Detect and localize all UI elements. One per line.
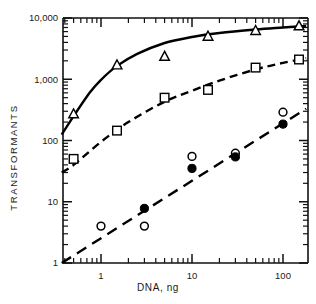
data-point-filled-circle: [188, 164, 196, 172]
x-tick-label: 100: [275, 270, 291, 281]
y-axis-title: TRANSFORMANTS: [2, 86, 24, 226]
data-point-open-square: [204, 86, 213, 95]
data-point-open-square: [113, 126, 122, 135]
series-line-triangles: [62, 26, 307, 135]
figure-container: 1101001,00010,000110100 TRANSFORMANTS DN…: [0, 0, 316, 304]
data-point-open-circle: [188, 153, 196, 161]
data-point-open-square: [160, 93, 169, 102]
x-tick-label: 1: [98, 270, 103, 281]
x-axis-title: DNA, ng: [0, 282, 316, 293]
y-tick-label: 10: [47, 196, 58, 207]
y-tick-label: 1,000: [34, 74, 58, 85]
data-point-filled-circle: [231, 153, 239, 161]
y-tick-label: 10,000: [29, 12, 58, 23]
series-line-filled-circles: [62, 109, 307, 263]
data-markers: [69, 21, 304, 230]
series-line-open-squares: [62, 58, 307, 172]
data-point-filled-circle: [279, 120, 287, 128]
y-tick-label: 1: [53, 257, 58, 268]
data-point-open-square: [295, 55, 304, 64]
y-axis-title-text: TRANSFORMANTS: [8, 88, 19, 228]
y-tick-label: 100: [42, 135, 58, 146]
x-tick-label: 10: [187, 270, 198, 281]
data-point-open-square: [69, 155, 78, 164]
data-point-open-circle: [141, 222, 149, 230]
data-point-open-triangle: [160, 51, 170, 60]
data-point-filled-circle: [140, 204, 148, 212]
data-point-open-square: [251, 63, 260, 72]
log-log-scatter-plot: 1101001,00010,000110100: [0, 0, 316, 304]
data-point-open-circle: [279, 108, 287, 116]
axis-tick-labels: 1101001,00010,000110100: [29, 12, 291, 281]
data-point-open-circle: [97, 222, 105, 230]
